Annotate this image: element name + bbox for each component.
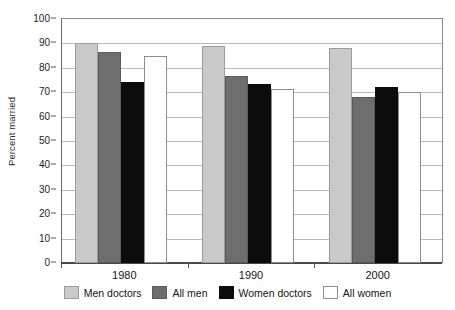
legend-label: Women doctors: [239, 287, 312, 299]
bar-group: [189, 19, 316, 263]
plot-area: [61, 18, 443, 263]
y-tick-label: 60: [39, 110, 50, 121]
y-tick-label: 70: [39, 86, 50, 97]
y-tick-label: 50: [39, 135, 50, 146]
y-tick-label: 90: [39, 37, 50, 48]
bar: [271, 89, 294, 263]
legend-swatch-icon: [152, 286, 167, 299]
bar-group: [315, 19, 442, 263]
y-tick-label: 80: [39, 61, 50, 72]
y-tick-mark: [51, 18, 56, 19]
bar: [98, 52, 121, 263]
legend-item: Men doctors: [64, 286, 142, 299]
legend-item: All men: [152, 286, 207, 299]
y-tick-mark: [51, 262, 56, 263]
y-tick-mark: [51, 91, 56, 92]
legend-item: Women doctors: [219, 286, 312, 299]
bar: [248, 84, 271, 263]
x-tick-mark: [188, 262, 189, 268]
bar: [375, 87, 398, 263]
y-tick-label: 30: [39, 183, 50, 194]
y-tick-mark: [51, 66, 56, 67]
chart-legend: Men doctorsAll menWomen doctorsAll women: [0, 286, 455, 299]
y-tick-mark: [51, 164, 56, 165]
legend-label: All women: [343, 287, 391, 299]
legend-swatch-icon: [323, 286, 338, 299]
y-tick-mark: [51, 140, 56, 141]
bar: [398, 92, 421, 263]
y-tick-mark: [51, 237, 56, 238]
y-tick-label: 100: [33, 13, 50, 24]
legend-swatch-icon: [64, 286, 79, 299]
bar: [144, 56, 167, 263]
x-tick-mark: [61, 262, 62, 268]
bar: [225, 76, 248, 263]
legend-swatch-icon: [219, 286, 234, 299]
legend-label: Men doctors: [84, 287, 142, 299]
y-tick-mark: [51, 42, 56, 43]
legend-item: All women: [323, 286, 391, 299]
y-tick-mark: [51, 188, 56, 189]
y-axis-tick-labels: 0102030405060708090100: [20, 0, 56, 272]
y-tick-label: 40: [39, 159, 50, 170]
y-tick-mark: [51, 115, 56, 116]
y-tick-label: 0: [44, 257, 50, 268]
x-tick-label: 1990: [239, 269, 263, 281]
bar: [329, 48, 352, 263]
bar: [75, 43, 98, 263]
bar-group: [62, 19, 189, 263]
y-tick-mark: [51, 213, 56, 214]
bar: [202, 46, 225, 263]
bar-chart-figure: Percent married 0102030405060708090100 1…: [0, 0, 455, 310]
legend-label: All men: [172, 287, 207, 299]
bar: [121, 82, 144, 263]
x-tick-mark: [314, 262, 315, 268]
y-tick-label: 20: [39, 208, 50, 219]
x-tick-label: 1980: [112, 269, 136, 281]
y-axis-title-text: Percent married: [7, 96, 18, 165]
y-tick-label: 10: [39, 232, 50, 243]
y-axis-title: Percent married: [2, 0, 22, 262]
x-tick-label: 2000: [365, 269, 389, 281]
bar: [352, 97, 375, 263]
